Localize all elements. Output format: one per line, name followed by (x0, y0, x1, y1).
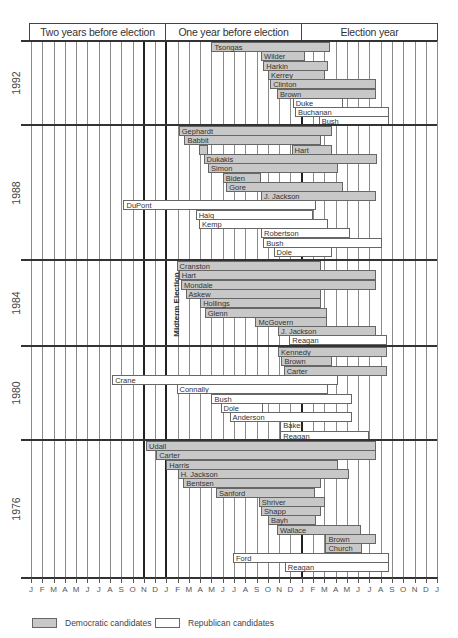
axis-month-label: J (94, 585, 104, 594)
axis-month-label: A (195, 585, 205, 594)
republican-swatch (155, 618, 180, 628)
axis-month-label: S (116, 585, 126, 594)
gridline-month-7 (110, 41, 111, 578)
gridline-month-6 (99, 41, 100, 578)
axis-month-label: M (206, 585, 216, 594)
gridline-month-8 (121, 41, 122, 578)
gridline-month-11 (155, 41, 156, 578)
axis-tick-21 (268, 578, 269, 583)
axis-tick-13 (178, 578, 179, 583)
axis-month-label: J (82, 585, 92, 594)
axis-month-label: S (252, 585, 262, 594)
axis-tick-33 (403, 578, 404, 583)
axis-month-label: F (37, 585, 47, 594)
axis-tick-15 (200, 578, 201, 583)
axis-tick-17 (223, 578, 224, 583)
axis-month-label: D (150, 585, 160, 594)
year-label-1988: 1988 (10, 173, 22, 213)
axis-month-label: M (319, 585, 329, 594)
axis-tick-32 (392, 578, 393, 583)
axis-month-label: J (432, 585, 442, 594)
axis-month-label: J (26, 585, 36, 594)
axis-tick-2 (54, 578, 55, 583)
legend-republican-label: Republican candidates (188, 618, 274, 628)
legend-democratic: Democratic candidates (32, 618, 151, 628)
axis-tick-24 (302, 578, 303, 583)
axis-month-label: A (105, 585, 115, 594)
axis-tick-19 (245, 578, 246, 583)
axis-tick-4 (76, 578, 77, 583)
gridline-month-15 (200, 41, 201, 578)
axis-tick-20 (257, 578, 258, 583)
axis-tick-3 (65, 578, 66, 583)
gridline-month-35 (426, 41, 427, 578)
axis-tick-0 (31, 578, 32, 583)
gridline-month-4 (76, 41, 77, 578)
axis-month-label: A (60, 585, 70, 594)
axis-month-label: J (218, 585, 228, 594)
axis-tick-36 (437, 578, 438, 583)
democratic-swatch (32, 618, 57, 628)
axis-month-label: N (139, 585, 149, 594)
midterm-election-label: Midterm Election (172, 260, 181, 350)
axis-tick-26 (324, 578, 325, 583)
axis-tick-25 (313, 578, 314, 583)
header-two-years-before: Two years before election (29, 23, 166, 41)
gridline-month-32 (392, 41, 393, 578)
axis-month-label: J (229, 585, 239, 594)
axis-tick-1 (42, 578, 43, 583)
axis-month-label: M (71, 585, 81, 594)
candidate-bar-1984-reagan: Reagan (289, 335, 387, 345)
gridline-month-36 (437, 41, 438, 578)
x-axis-line (21, 577, 438, 579)
legend-democratic-label: Democratic candidates (65, 618, 151, 628)
axis-month-label: M (49, 585, 59, 594)
gridline-month-9 (133, 41, 134, 578)
axis-month-label: A (376, 585, 386, 594)
gridline-month-3 (65, 41, 66, 578)
header-one-year-before: One year before election (165, 23, 302, 41)
axis-month-label: J (364, 585, 374, 594)
axis-tick-23 (290, 578, 291, 583)
axis-tick-5 (87, 578, 88, 583)
axis-tick-34 (415, 578, 416, 583)
axis-month-label: O (263, 585, 273, 594)
candidate-bar-1976-reagan: Reagan (285, 562, 389, 572)
axis-tick-31 (381, 578, 382, 583)
axis-month-label: A (240, 585, 250, 594)
candidate-bar-1988-dole: Dole (274, 247, 333, 257)
axis-month-label: N (410, 585, 420, 594)
axis-month-label: M (184, 585, 194, 594)
axis-tick-10 (144, 578, 145, 583)
axis-tick-9 (133, 578, 134, 583)
gridline-month-0 (31, 41, 32, 578)
axis-tick-22 (279, 578, 280, 583)
axis-tick-29 (358, 578, 359, 583)
gridline-month-14 (189, 41, 190, 578)
axis-tick-16 (211, 578, 212, 583)
axis-tick-8 (121, 578, 122, 583)
axis-tick-14 (189, 578, 190, 583)
gridline-month-2 (54, 41, 55, 578)
axis-month-label: M (342, 585, 352, 594)
axis-month-label: J (353, 585, 363, 594)
year-label-1992: 1992 (10, 63, 22, 103)
gridline-month-33 (403, 41, 404, 578)
year-label-1984: 1984 (10, 283, 22, 323)
axis-tick-7 (110, 578, 111, 583)
axis-month-label: D (285, 585, 295, 594)
axis-tick-30 (369, 578, 370, 583)
axis-month-label: D (421, 585, 431, 594)
gridline-month-1 (42, 41, 43, 578)
gridline-month-12 (165, 41, 167, 578)
gridline-month-34 (415, 41, 416, 578)
axis-month-label: S (387, 585, 397, 594)
axis-month-label: O (128, 585, 138, 594)
axis-month-label: J (297, 585, 307, 594)
axis-tick-12 (166, 578, 167, 583)
legend-republican: Republican candidates (155, 618, 274, 628)
axis-month-label: J (161, 585, 171, 594)
year-label-1976: 1976 (10, 489, 22, 529)
axis-month-label: F (173, 585, 183, 594)
gridline-month-5 (87, 41, 88, 578)
